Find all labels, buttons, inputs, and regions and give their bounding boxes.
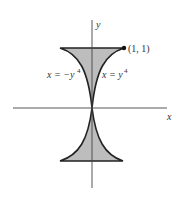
x-axis-label: x — [166, 111, 172, 122]
left-curve-label: x = −y — [46, 69, 75, 80]
region-diagram: y x (1, 1) x = −y 4 x = y 4 — [0, 0, 187, 197]
y-axis-label: y — [95, 19, 101, 30]
point-marker — [122, 46, 126, 50]
right-curve-label: x = y — [101, 69, 123, 80]
lower-shaded-region — [60, 108, 123, 161]
point-label: (1, 1) — [128, 43, 150, 55]
right-curve-exponent: 4 — [124, 67, 128, 75]
left-curve-exponent: 4 — [77, 67, 81, 75]
